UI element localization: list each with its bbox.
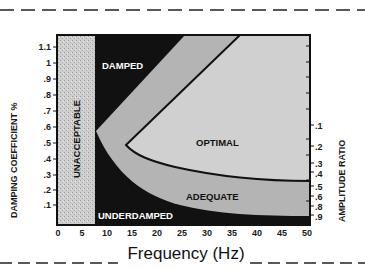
y2-axis-title: AMPLITUDE RATIO <box>337 140 347 222</box>
x-tick-label: 35 <box>227 228 237 238</box>
label-damped: DAMPED <box>102 60 143 71</box>
y-tick-label: .9 <box>43 74 51 84</box>
chart-canvas: 1.1 1 .9 .8 .7 .6 .5 .4 .3 .2 .1 .1 .2 .… <box>0 0 365 269</box>
x-axis-tick-labels: 0 5 10 15 20 25 30 35 40 45 50 <box>55 228 312 238</box>
x-tick-label: 25 <box>177 228 187 238</box>
y-tick-label: .8 <box>43 90 51 100</box>
y2-tick-label: .1 <box>315 121 323 131</box>
x-tick-label: 0 <box>55 228 60 238</box>
y2-tick-label: .6 <box>315 192 323 202</box>
label-adequate: ADEQUATE <box>186 191 239 202</box>
x-tick-label: 5 <box>79 228 84 238</box>
x-tick-label: 10 <box>102 228 112 238</box>
y2-tick-label: .9 <box>315 212 323 222</box>
x-tick-label: 45 <box>277 228 287 238</box>
y2-tick-label: .3 <box>315 159 323 169</box>
y-tick-label: 1 <box>46 58 51 68</box>
x-tick-label: 20 <box>152 228 162 238</box>
y-tick-label: .7 <box>43 106 51 116</box>
y-tick-label: .1 <box>43 200 51 210</box>
x-tick-label: 15 <box>127 228 137 238</box>
y2-tick-label: .4 <box>315 169 323 179</box>
x-tick-label: 30 <box>202 228 212 238</box>
x-axis-title: Frequency (Hz) <box>127 244 244 263</box>
y-axis-title: DAMPING COEFFICIENT % <box>9 102 19 218</box>
y-tick-label: .2 <box>43 185 51 195</box>
y-tick-label: .4 <box>43 154 51 164</box>
y-tick-label: .5 <box>43 138 51 148</box>
y-axis-tick-labels: 1.1 1 .9 .8 .7 .6 .5 .4 .3 .2 .1 <box>38 42 51 210</box>
x-tick-label: 50 <box>302 228 312 238</box>
label-optimal: OPTIMAL <box>196 137 239 148</box>
y-tick-label: .6 <box>43 122 51 132</box>
y-tick-label: .3 <box>43 170 51 180</box>
label-underdamped: UNDERDAMPED <box>98 210 173 221</box>
y2-tick-label: .2 <box>315 142 323 152</box>
label-unacceptable: UNACCEPTABLE <box>71 100 82 178</box>
y2-tick-label: .5 <box>315 182 323 192</box>
x-tick-label: 40 <box>252 228 262 238</box>
y2-tick-label: .8 <box>315 202 323 212</box>
y2-axis-tick-labels: .1 .2 .3 .4 .5 .6 .8 .9 <box>315 121 323 222</box>
y-tick-label: 1.1 <box>38 42 51 52</box>
